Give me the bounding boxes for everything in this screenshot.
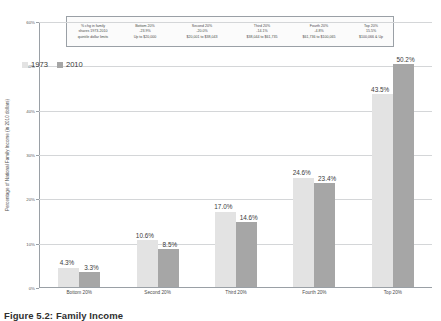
bar-1973[interactable]: 10.6% xyxy=(137,240,158,287)
bar-value-label: 4.3% xyxy=(60,259,75,266)
y-axis-tick-label: 20% xyxy=(26,197,35,202)
y-axis-tick xyxy=(36,199,39,200)
bar-value-label: 3.3% xyxy=(84,264,99,271)
plot-area: 0%10%20%30%40%50%60% 4.3%3.3%10.6%8.5%17… xyxy=(39,22,432,288)
bar-group: 17.0%14.6% xyxy=(197,22,275,287)
x-axis-line xyxy=(39,287,432,288)
x-axis-label: Second 20% xyxy=(118,290,196,295)
legend-label: 1973 xyxy=(31,60,48,69)
bar-value-label: 50.2% xyxy=(396,56,414,63)
bar-group: 24.6%23.4% xyxy=(275,22,353,287)
y-axis-tick-label: 0% xyxy=(29,286,35,291)
bar-value-label: 43.5% xyxy=(371,86,389,93)
y-axis-tick xyxy=(36,155,39,156)
y-axis-tick xyxy=(36,244,39,245)
bar-value-label: 24.6% xyxy=(293,169,311,176)
bar-group: 10.6%8.5% xyxy=(118,22,196,287)
x-axis-label: Fourth 20% xyxy=(275,290,353,295)
bar-2010[interactable]: 8.5% xyxy=(158,249,179,287)
bar-value-label: 8.5% xyxy=(163,241,178,248)
bar-groups: 4.3%3.3%10.6%8.5%17.0%14.6%24.6%23.4%43.… xyxy=(40,22,432,287)
bar-value-label: 17.0% xyxy=(214,203,232,210)
bar-value-label: 10.6% xyxy=(136,232,154,239)
y-axis-tick-label: 30% xyxy=(26,153,35,158)
legend-item-1973: 1973 xyxy=(22,60,48,69)
bar-2010[interactable]: 3.3% xyxy=(79,272,100,287)
y-axis-tick-label: 60% xyxy=(26,20,35,25)
bar-1973[interactable]: 17.0% xyxy=(215,212,236,287)
x-axis-label: Third 20% xyxy=(197,290,275,295)
legend-swatch-icon xyxy=(57,62,63,68)
bar-2010[interactable]: 50.2% xyxy=(393,64,414,287)
y-axis-tick-label: 40% xyxy=(26,108,35,113)
figure-caption: Figure 5.2: Family Income xyxy=(4,310,123,321)
bar-value-label: 23.4% xyxy=(318,175,336,182)
y-axis-tick xyxy=(36,288,39,289)
y-axis-title: Percentage of National Family Income (in… xyxy=(5,99,10,211)
bar-2010[interactable]: 14.6% xyxy=(236,222,257,287)
x-axis-label: Bottom 20% xyxy=(40,290,118,295)
bar-2010[interactable]: 23.4% xyxy=(314,183,335,287)
legend-item-2010: 2010 xyxy=(57,60,83,69)
bar-value-label: 14.6% xyxy=(240,214,258,221)
chart-legend: 1973 2010 xyxy=(22,60,83,69)
y-axis-tick-label: 10% xyxy=(26,241,35,246)
x-axis-labels: Bottom 20%Second 20%Third 20%Fourth 20%T… xyxy=(40,290,432,295)
x-axis-label: Top 20% xyxy=(354,290,432,295)
legend-swatch-icon xyxy=(22,62,28,68)
bar-1973[interactable]: 4.3% xyxy=(58,268,79,287)
bar-group: 43.5%50.2% xyxy=(354,22,432,287)
legend-label: 2010 xyxy=(66,60,83,69)
bar-1973[interactable]: 43.5% xyxy=(372,94,393,287)
y-axis-tick xyxy=(36,111,39,112)
bar-1973[interactable]: 24.6% xyxy=(293,178,314,287)
y-axis-tick xyxy=(36,22,39,23)
